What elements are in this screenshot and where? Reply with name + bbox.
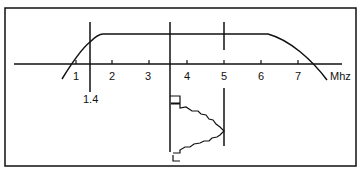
spectrum-envelope [170, 96, 224, 161]
tick-label-1: 1 [73, 70, 79, 82]
diagram: 1 2 3 4 5 6 7 Mhz 1.4 [0, 0, 361, 172]
response-curve [62, 34, 327, 80]
unit-label: Mhz [330, 70, 351, 82]
tick-label-6: 6 [258, 70, 264, 82]
diagram-canvas: 1 2 3 4 5 6 7 Mhz 1.4 [0, 0, 361, 172]
tick-label-2: 2 [109, 70, 115, 82]
tick-label-4: 4 [184, 70, 190, 82]
tick-label-5: 5 [221, 70, 227, 82]
marker-label-1-4: 1.4 [83, 93, 98, 105]
tick-label-7: 7 [295, 70, 301, 82]
tick-label-3: 3 [145, 70, 151, 82]
frame-border [5, 8, 356, 166]
